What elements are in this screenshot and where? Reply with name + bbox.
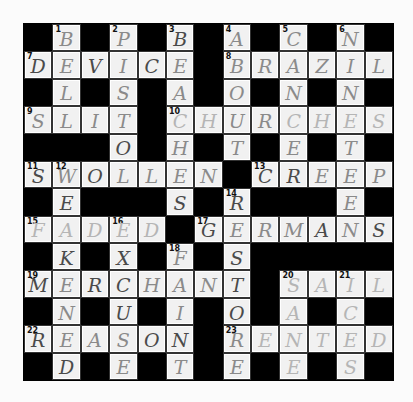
grid-cell[interactable]: A (166, 79, 194, 106)
grid-cell[interactable]: T (166, 353, 194, 380)
grid-cell[interactable]: E (223, 216, 251, 243)
grid-cell[interactable]: C (109, 270, 137, 297)
grid-cell[interactable]: D (138, 216, 166, 243)
grid-cell[interactable]: A (52, 216, 80, 243)
grid-cell[interactable]: E (336, 325, 364, 352)
grid-cell[interactable]: N (336, 79, 364, 106)
grid-cell[interactable]: M (279, 216, 307, 243)
grid-cell[interactable]: 2P (109, 24, 137, 51)
grid-cell[interactable]: E (52, 270, 80, 297)
grid-cell[interactable]: 3B (166, 24, 194, 51)
grid-cell[interactable]: L (109, 161, 137, 188)
grid-cell[interactable]: O (81, 161, 109, 188)
grid-cell[interactable]: N (52, 298, 80, 325)
grid-cell[interactable]: 13C (251, 161, 279, 188)
grid-cell[interactable]: L (365, 51, 393, 78)
grid-cell[interactable]: 4A (223, 24, 251, 51)
grid-cell[interactable]: D (81, 216, 109, 243)
grid-cell[interactable]: H (138, 270, 166, 297)
grid-cell[interactable]: 5C (279, 24, 307, 51)
grid-cell[interactable]: N (279, 325, 307, 352)
grid-cell[interactable]: C (279, 106, 307, 133)
grid-cell[interactable]: L (365, 270, 393, 297)
grid-cell[interactable]: E (336, 188, 364, 215)
grid-cell[interactable]: O (138, 325, 166, 352)
grid-cell[interactable]: H (308, 106, 336, 133)
grid-cell[interactable]: S (336, 353, 364, 380)
grid-cell[interactable]: 10C (166, 106, 194, 133)
grid-cell[interactable]: R (279, 161, 307, 188)
grid-cell[interactable]: R (251, 51, 279, 78)
grid-cell[interactable]: E (223, 353, 251, 380)
grid-cell[interactable]: E (279, 353, 307, 380)
grid-cell[interactable]: 21I (336, 270, 364, 297)
grid-cell[interactable]: E (251, 325, 279, 352)
grid-cell[interactable]: T (109, 106, 137, 133)
grid-cell[interactable]: 7D (24, 51, 52, 78)
grid-cell[interactable]: E (336, 161, 364, 188)
grid-cell[interactable]: Z (308, 51, 336, 78)
grid-cell[interactable]: N (194, 270, 222, 297)
grid-cell[interactable]: 16E (109, 216, 137, 243)
grid-cell[interactable]: U (109, 298, 137, 325)
grid-cell[interactable]: T (223, 134, 251, 161)
grid-cell[interactable]: V (81, 51, 109, 78)
grid-cell[interactable]: L (52, 79, 80, 106)
grid-cell[interactable]: S (166, 188, 194, 215)
grid-cell[interactable]: O (109, 134, 137, 161)
grid-cell[interactable]: S (365, 106, 393, 133)
grid-cell[interactable]: S (365, 216, 393, 243)
grid-cell[interactable]: P (365, 161, 393, 188)
grid-cell[interactable]: O (223, 79, 251, 106)
grid-cell[interactable]: I (336, 51, 364, 78)
grid-cell[interactable]: 23R (223, 325, 251, 352)
grid-cell[interactable]: T (308, 325, 336, 352)
grid-cell[interactable]: E (52, 51, 80, 78)
grid-cell[interactable]: E (52, 188, 80, 215)
grid-cell[interactable]: I (166, 298, 194, 325)
grid-cell[interactable]: C (138, 51, 166, 78)
grid-cell[interactable]: L (138, 161, 166, 188)
grid-cell[interactable]: 14R (223, 188, 251, 215)
grid-cell[interactable]: R (251, 216, 279, 243)
grid-cell[interactable]: 8B (223, 51, 251, 78)
grid-cell[interactable]: E (308, 161, 336, 188)
grid-cell[interactable]: D (365, 325, 393, 352)
grid-cell[interactable]: U (223, 106, 251, 133)
grid-cell[interactable]: S (223, 243, 251, 270)
grid-cell[interactable]: R (81, 270, 109, 297)
grid-cell[interactable]: 18F (166, 243, 194, 270)
grid-cell[interactable]: N (336, 216, 364, 243)
grid-cell[interactable]: 19M (24, 270, 52, 297)
grid-cell[interactable]: D (52, 353, 80, 380)
grid-cell[interactable]: A (308, 270, 336, 297)
grid-cell[interactable]: N (194, 161, 222, 188)
grid-cell[interactable]: N (279, 79, 307, 106)
grid-cell[interactable]: E (279, 134, 307, 161)
grid-cell[interactable]: A (81, 325, 109, 352)
grid-cell[interactable]: E (166, 161, 194, 188)
grid-cell[interactable]: E (52, 325, 80, 352)
grid-cell[interactable]: N (166, 325, 194, 352)
grid-cell[interactable]: K (52, 243, 80, 270)
grid-cell[interactable]: X (109, 243, 137, 270)
grid-cell[interactable]: 11S (24, 161, 52, 188)
grid-cell[interactable]: E (109, 353, 137, 380)
grid-cell[interactable]: E (166, 51, 194, 78)
grid-cell[interactable]: I (109, 51, 137, 78)
grid-cell[interactable]: T (336, 134, 364, 161)
grid-cell[interactable]: H (166, 134, 194, 161)
grid-cell[interactable]: S (109, 325, 137, 352)
grid-cell[interactable]: A (279, 51, 307, 78)
grid-cell[interactable]: 20S (279, 270, 307, 297)
grid-cell[interactable]: A (308, 216, 336, 243)
grid-cell[interactable]: 22R (24, 325, 52, 352)
grid-cell[interactable]: 12W (52, 161, 80, 188)
grid-cell[interactable]: I (81, 106, 109, 133)
grid-cell[interactable]: S (109, 79, 137, 106)
grid-cell[interactable]: 15F (24, 216, 52, 243)
grid-cell[interactable]: O (223, 298, 251, 325)
grid-cell[interactable]: 6N (336, 24, 364, 51)
grid-cell[interactable]: 9S (24, 106, 52, 133)
grid-cell[interactable]: T (223, 270, 251, 297)
